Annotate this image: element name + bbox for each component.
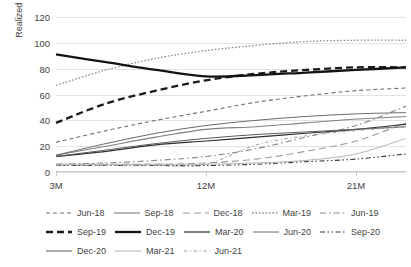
y-tick-label: 120 — [34, 12, 50, 23]
x-tick-label: 12M — [197, 180, 215, 191]
legend-label: Mar-21 — [146, 246, 175, 256]
y-tick-label: 0 — [45, 167, 50, 178]
legend-swatch-icon — [115, 228, 141, 236]
legend-item-sep-19[interactable]: Sep-19 — [46, 227, 106, 237]
legend-row: Dec-20Mar-21Jun-21 — [46, 241, 396, 260]
legend-label: Mar-20 — [215, 227, 244, 237]
legend-swatch-icon — [46, 228, 72, 236]
legend-item-jun-21[interactable]: Jun-21 — [184, 246, 243, 256]
legend-item-dec-19[interactable]: Dec-19 — [115, 227, 175, 237]
legend-label: Dec-18 — [214, 208, 243, 218]
legend-item-sep-18[interactable]: Sep-18 — [114, 208, 174, 218]
x-tick-mark — [56, 172, 57, 176]
legend-label: Dec-19 — [146, 227, 175, 237]
y-axis-title: Realized volatility in bp — [14, 0, 24, 57]
series-lines — [56, 17, 406, 172]
legend-item-dec-18[interactable]: Dec-18 — [183, 208, 243, 218]
series-line-dec-19 — [56, 54, 406, 76]
legend-item-jun-19[interactable]: Jun-19 — [320, 208, 379, 218]
realized-volatility-chart: 120100806040200 3M12M21M Realized volati… — [0, 0, 411, 267]
gridline — [56, 172, 406, 173]
legend-item-dec-20[interactable]: Dec-20 — [46, 246, 106, 256]
legend-swatch-icon — [184, 247, 210, 255]
y-tick-label: 100 — [34, 37, 50, 48]
y-tick-label: 60 — [39, 89, 50, 100]
y-tick-label: 40 — [39, 115, 50, 126]
x-tick-label: 21M — [347, 180, 365, 191]
y-tick-label: 80 — [39, 63, 50, 74]
legend-label: Jun-19 — [351, 208, 379, 218]
legend-label: Mar-19 — [283, 208, 312, 218]
x-tick-mark — [356, 172, 357, 176]
legend-swatch-icon — [320, 209, 346, 217]
legend-label: Jun-20 — [284, 227, 312, 237]
y-tick-label: 20 — [39, 141, 50, 152]
series-line-jun-18 — [56, 88, 406, 142]
legend-swatch-icon — [114, 209, 140, 217]
legend-label: Jun-18 — [77, 208, 105, 218]
legend-swatch-icon — [320, 228, 346, 236]
legend-swatch-icon — [46, 209, 72, 217]
legend-item-jun-20[interactable]: Jun-20 — [253, 227, 312, 237]
legend-item-jun-18[interactable]: Jun-18 — [46, 208, 105, 218]
legend-swatch-icon — [253, 228, 279, 236]
legend-swatch-icon — [46, 247, 72, 255]
x-tick-mark — [206, 172, 207, 176]
legend-swatch-icon — [115, 247, 141, 255]
legend-label: Sep-18 — [145, 208, 174, 218]
legend-label: Sep-19 — [77, 227, 106, 237]
legend-item-mar-21[interactable]: Mar-21 — [115, 246, 175, 256]
legend-swatch-icon — [183, 209, 209, 217]
legend-row: Sep-19Dec-19Mar-20Jun-20Sep-20 — [46, 222, 396, 241]
plot-area: 120100806040200 3M12M21M Realized volati… — [56, 17, 406, 172]
legend-label: Jun-21 — [215, 246, 243, 256]
legend-item-mar-19[interactable]: Mar-19 — [252, 208, 312, 218]
legend-label: Sep-20 — [351, 227, 380, 237]
legend-item-mar-20[interactable]: Mar-20 — [184, 227, 244, 237]
legend-item-sep-20[interactable]: Sep-20 — [320, 227, 380, 237]
x-tick-label: 3M — [49, 180, 62, 191]
legend-label: Dec-20 — [77, 246, 106, 256]
legend-swatch-icon — [252, 209, 278, 217]
legend-row: Jun-18Sep-18Dec-18Mar-19Jun-19 — [46, 203, 396, 222]
legend-swatch-icon — [184, 228, 210, 236]
series-line-jun-21 — [56, 127, 406, 166]
chart-legend: Jun-18Sep-18Dec-18Mar-19Jun-19Sep-19Dec-… — [46, 203, 396, 260]
